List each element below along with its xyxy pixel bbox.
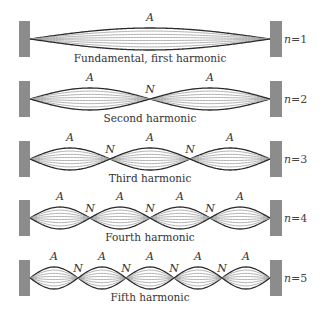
right-wall [270,21,282,57]
right-wall [270,81,282,117]
left-wall [19,260,30,296]
string-envelopes [30,28,270,50]
antinode-label: A [97,250,106,263]
antinode-label: A [241,250,250,263]
antinode-label: A [115,190,124,203]
antinode-label: A [193,250,202,263]
antinode-label: A [235,190,244,203]
string-envelopes [30,148,270,170]
antinode-label: A [175,190,184,203]
left-wall [19,141,30,177]
node-label: N [144,83,155,96]
antinode-label: A [49,250,58,263]
node-label: N [168,262,179,275]
node-label: N [184,143,195,156]
node-label: N [84,202,95,215]
string-intermediate [30,39,270,41]
node-label: N [204,202,215,215]
harmonic-number-label: n=4 [284,212,307,225]
string-intermediate [30,154,270,163]
right-wall [270,200,282,236]
harmonic-number-label: n=5 [284,272,307,285]
node-label: N [120,262,131,275]
node-label: N [144,202,155,215]
node-label: N [72,262,83,275]
string-intermediate [30,151,270,167]
harmonic-number-label: n=2 [284,93,307,106]
harmonic-row-4: AAAANNNn=4Fourth harmonic [19,190,307,243]
harmonic-caption: Fifth harmonic [110,291,189,303]
right-wall [270,260,282,296]
antinode-label: A [205,71,214,84]
harmonic-number-label: n=3 [284,153,307,166]
left-wall [19,21,30,57]
left-wall [19,81,30,117]
string-intermediate [30,37,270,39]
harmonic-caption: Fundamental, first harmonic [74,52,227,64]
left-wall [19,200,30,236]
node-label: N [216,262,227,275]
right-wall [270,141,282,177]
antinode-label: A [225,131,234,144]
harmonic-caption: Third harmonic [109,172,192,184]
antinode-label: A [65,131,74,144]
harmonic-row-1: An=1Fundamental, first harmonic [19,11,307,64]
harmonics-diagram: An=1Fundamental, first harmonicAANn=2Sec… [0,0,327,318]
harmonic-row-2: AANn=2Second harmonic [19,71,307,124]
node-label: N [104,143,115,156]
harmonic-row-3: AAANNn=3Third harmonic [19,131,307,184]
string-envelopes [30,267,270,289]
string-intermediate [30,151,270,167]
antinode-label: A [145,11,154,24]
antinode-label: A [145,131,154,144]
string-intermediate [30,154,270,163]
string-intermediate [30,157,270,160]
antinode-label: A [145,250,154,263]
harmonic-caption: Second harmonic [104,112,197,124]
antinode-label: A [55,190,64,203]
antinode-label: A [85,71,94,84]
harmonic-number-label: n=1 [284,33,307,46]
string-intermediate [30,157,270,160]
harmonic-row-5: AAAAANNNNn=5Fifth harmonic [19,250,307,303]
harmonic-caption: Fourth harmonic [105,231,195,243]
